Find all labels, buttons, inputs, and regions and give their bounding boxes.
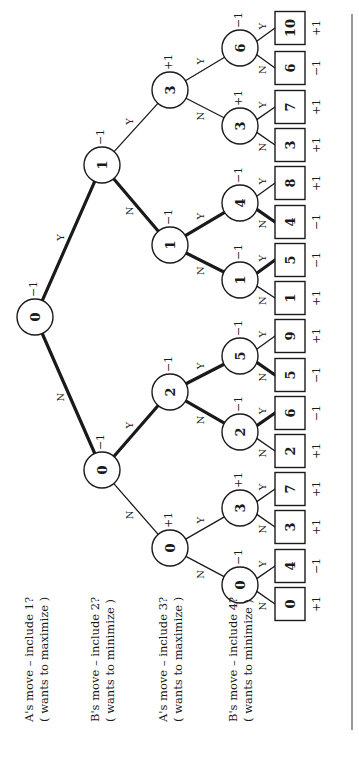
tree-node: 3+1 <box>222 90 258 144</box>
leaf-value: 7 <box>283 102 298 111</box>
leaf-score: +1 <box>310 328 323 344</box>
edge-label-yes: Y <box>257 255 268 263</box>
leaf-value: 4 <box>283 561 298 570</box>
leaf-node: 4−1 <box>275 206 323 239</box>
node-value: 0 <box>233 580 248 589</box>
leaf-value: 5 <box>283 370 298 379</box>
node-value: 3 <box>163 85 178 94</box>
edge-label-yes: Y <box>124 118 135 126</box>
edge <box>114 103 158 151</box>
node-value: 6 <box>233 43 248 52</box>
leaf-value: 5 <box>283 255 298 264</box>
leaf-score: −1 <box>310 558 323 574</box>
node-score: +1 <box>162 512 175 528</box>
leaf-value: 2 <box>283 446 298 455</box>
level-label-subtitle: ( wants to minimize ) <box>241 599 255 722</box>
leaf-node: 5−1 <box>275 359 323 392</box>
node-score: −1 <box>232 396 245 412</box>
edge-label-no: N <box>195 266 206 275</box>
node-value: 0 <box>95 465 110 474</box>
edge-label-yes: Y <box>195 213 206 221</box>
edge-bold <box>114 179 159 232</box>
edge-label-yes: Y <box>257 560 268 568</box>
level-label-title: A's move – include 1? <box>22 597 36 723</box>
node-value: 3 <box>233 121 248 130</box>
level-label-subtitle: ( wants to minimize ) <box>103 599 117 722</box>
node-value: 1 <box>95 160 110 169</box>
edge-label-yes: Y <box>257 23 268 31</box>
tree-node: 0+1 <box>152 512 188 566</box>
leaf-value: 6 <box>283 408 298 417</box>
leaf-value: 0 <box>283 599 298 608</box>
edge-label-yes: Y <box>257 178 268 186</box>
node-score: +1 <box>162 54 175 70</box>
leaf-score: +1 <box>310 596 323 612</box>
edge-label-no: N <box>124 206 135 215</box>
node-value: 2 <box>163 387 178 396</box>
leaf-score: +1 <box>310 20 323 36</box>
node-score: −1 <box>162 209 175 225</box>
leaf-node: 3+1 <box>275 511 323 544</box>
node-value: 5 <box>233 351 248 360</box>
edge-label-yes: Y <box>257 331 268 339</box>
edge-label-no: N <box>195 415 206 424</box>
tree-node: 3+1 <box>152 54 188 108</box>
edge-label-no: N <box>257 296 268 305</box>
node-value: 4 <box>233 198 248 207</box>
leaf-value: 1 <box>283 293 298 302</box>
leaf-node: 3+1 <box>275 129 323 162</box>
node-score: −1 <box>232 167 245 183</box>
tree-node: 4−1 <box>222 167 258 221</box>
leaf-value: 7 <box>283 484 298 493</box>
leaf-score: +1 <box>310 137 323 153</box>
leaf-value: 4 <box>283 217 298 226</box>
leaf-score: +1 <box>310 481 323 497</box>
leaf-score: −1 <box>310 214 323 230</box>
game-tree-diagram: YNYNYNYNYNYNYNYNYNYNYNYNYNYNYN 0−11−10−1… <box>0 0 359 763</box>
node-score: −1 <box>232 320 245 336</box>
leaf-node: 7+1 <box>275 473 323 506</box>
node-value: 0 <box>28 312 43 321</box>
leaf-node: 9+1 <box>275 320 323 353</box>
leaf-value: 3 <box>283 522 298 531</box>
node-score: −1 <box>94 434 107 450</box>
edge-label-no: N <box>257 219 268 228</box>
leaf-node: 4−1 <box>275 550 323 583</box>
level-label-title: B's move – include 4? <box>226 597 240 722</box>
tree-node: 0−1 <box>222 549 258 603</box>
leaf-score: +1 <box>310 443 323 459</box>
edge-label-no: N <box>55 392 66 401</box>
node-value: 1 <box>233 275 248 284</box>
leaf-score: −1 <box>310 60 323 76</box>
edge-label-no: N <box>257 524 268 533</box>
level-label-subtitle: ( wants to maximize ) <box>171 597 185 722</box>
edge-label-yes: Y <box>55 234 66 242</box>
leaf-value: 10 <box>283 19 298 37</box>
node-value: 1 <box>163 240 178 249</box>
game-tree-svg: YNYNYNYNYNYNYNYNYNYNYNYNYNYNYN 0−11−10−1… <box>0 0 359 763</box>
edge-label-no: N <box>257 372 268 381</box>
edge-bold <box>42 333 95 453</box>
tree-node: 1−1 <box>84 129 120 183</box>
edge-label-no: N <box>257 142 268 151</box>
leaf-node: 8+1 <box>275 167 323 200</box>
leaf-value: 3 <box>283 140 298 149</box>
edge-label-yes: Y <box>257 407 268 415</box>
node-value: 3 <box>233 503 248 512</box>
node-value: 2 <box>233 427 248 436</box>
edge-label-yes: Y <box>124 421 135 429</box>
leaf-score: +1 <box>310 175 323 191</box>
leaf-score: +1 <box>310 290 323 306</box>
nodes-layer: 0−11−10−13+11−12−10+16−13+14−11−15−12−13… <box>17 12 258 603</box>
leaf-node: 10+1 <box>275 12 323 45</box>
leaf-node: 5−1 <box>275 244 323 277</box>
edge-bold <box>114 406 158 457</box>
tree-node: 2−1 <box>152 356 188 410</box>
tree-node: 5−1 <box>222 320 258 374</box>
leaf-score: −1 <box>310 405 323 421</box>
tree-node: 2−1 <box>222 396 258 450</box>
leaf-node: 6−1 <box>275 52 323 85</box>
node-score: +1 <box>232 472 245 488</box>
tree-node: 3+1 <box>222 472 258 526</box>
edge <box>114 484 158 535</box>
